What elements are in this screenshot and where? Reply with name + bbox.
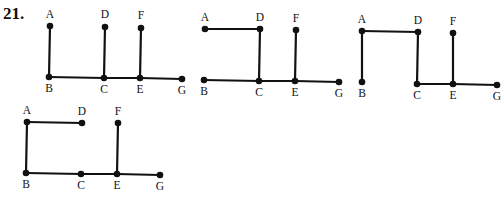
node-label-e: E	[136, 83, 143, 95]
node-label-a: A	[23, 104, 32, 116]
node-label-g: G	[493, 90, 501, 102]
node-label-e: E	[449, 89, 456, 101]
node-e	[292, 78, 299, 85]
node-label-b: B	[22, 178, 30, 190]
node-label-d: D	[78, 105, 86, 117]
node-a	[24, 119, 31, 126]
node-b	[359, 79, 366, 86]
node-label-b: B	[358, 87, 366, 99]
edge-a-b	[26, 122, 27, 173]
graph-3: ADFBCEG	[358, 13, 501, 102]
node-label-a: A	[358, 13, 367, 25]
graph-1: ABDCFEG	[45, 8, 186, 96]
node-label-a: A	[201, 11, 210, 23]
node-label-f: F	[138, 9, 144, 21]
node-label-e: E	[291, 86, 298, 98]
node-a	[47, 23, 54, 30]
edge-b-c	[49, 77, 104, 78]
problem-number: 21.	[3, 4, 24, 23]
node-label-d: D	[256, 11, 264, 23]
edge-d-c	[417, 32, 418, 84]
node-d	[79, 120, 86, 127]
node-label-g: G	[178, 84, 186, 96]
node-d	[257, 26, 264, 33]
node-a	[202, 26, 209, 33]
node-label-b: B	[200, 85, 208, 97]
edge-a-b	[49, 26, 50, 77]
node-g	[157, 172, 164, 179]
node-a	[359, 28, 366, 35]
node-d	[415, 29, 422, 36]
node-label-f: F	[450, 15, 456, 27]
edge-e-g	[140, 78, 182, 79]
node-label-d: D	[414, 14, 422, 26]
edge-f-e	[140, 28, 141, 78]
graph-4: ADFBCEG	[22, 104, 164, 192]
edge-e-g	[453, 84, 497, 85]
node-c	[256, 78, 263, 85]
node-label-g: G	[335, 87, 343, 99]
edge-f-e	[117, 123, 118, 174]
edge-f-e	[295, 30, 296, 81]
node-label-c: C	[413, 89, 421, 101]
graph-2: ADFBCEG	[200, 11, 343, 99]
node-d	[102, 24, 109, 31]
edge-e-g	[117, 174, 160, 175]
node-b	[46, 74, 53, 81]
node-b	[23, 170, 30, 177]
node-f	[450, 30, 457, 37]
node-f	[138, 25, 145, 32]
node-label-a: A	[46, 8, 55, 20]
node-label-f: F	[293, 12, 299, 24]
node-c	[414, 81, 421, 88]
node-label-c: C	[255, 86, 263, 98]
edge-b-c	[204, 80, 259, 81]
spanning-trees-figure: 21. ABDCFEGADFBCEGADFBCEGADFBCEG	[0, 0, 504, 199]
node-label-f: F	[115, 105, 121, 117]
edge-e-g	[295, 81, 339, 82]
node-e	[137, 75, 144, 82]
node-label-c: C	[100, 83, 108, 95]
node-g	[336, 79, 343, 86]
edge-a-d	[362, 31, 418, 32]
node-e	[114, 171, 121, 178]
edge-d-c	[104, 27, 105, 78]
node-g	[179, 76, 186, 83]
graphs-layer: ABDCFEGADFBCEGADFBCEGADFBCEG	[22, 8, 501, 192]
node-g	[494, 82, 501, 89]
node-f	[115, 120, 122, 127]
node-label-b: B	[45, 82, 53, 94]
node-label-d: D	[101, 8, 109, 20]
edge-d-a	[27, 122, 82, 123]
node-f	[293, 27, 300, 34]
node-c	[101, 75, 108, 82]
node-c	[78, 171, 85, 178]
node-label-g: G	[156, 180, 164, 192]
node-e	[450, 81, 457, 88]
node-label-e: E	[113, 179, 120, 191]
node-label-c: C	[77, 179, 85, 191]
edge-d-c	[259, 29, 260, 81]
edge-b-c	[26, 173, 81, 174]
node-b	[201, 77, 208, 84]
